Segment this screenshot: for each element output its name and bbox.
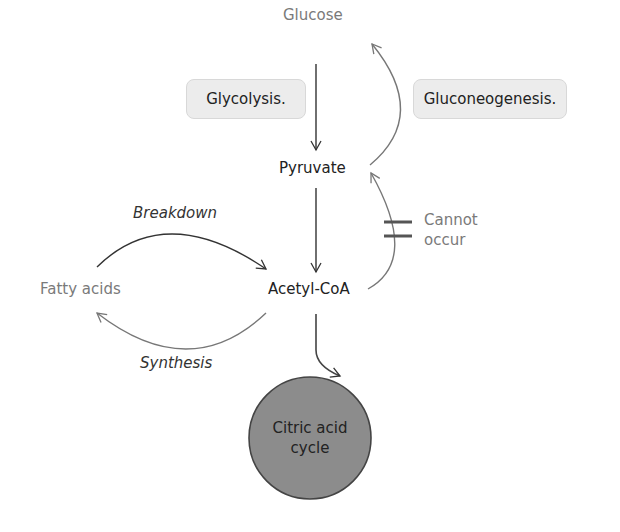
gluconeogenesis-box: Gluconeogenesis. — [413, 79, 567, 119]
glycolysis-box: Glycolysis. — [186, 79, 306, 119]
cannot-occur-line2: occur — [424, 230, 465, 250]
gluconeogenesis-label: Gluconeogenesis. — [424, 90, 557, 108]
glucose-label: Glucose — [283, 6, 343, 24]
glycolysis-label: Glycolysis. — [206, 90, 286, 108]
synthesis-label: Synthesis — [140, 354, 212, 372]
fatty-acids-label: Fatty acids — [40, 280, 121, 298]
synthesis-arrow — [97, 313, 266, 349]
cycle-line2: cycle — [250, 438, 370, 458]
breakdown-label: Breakdown — [133, 204, 217, 222]
citric-acid-cycle-label: Citric acid cycle — [250, 418, 370, 458]
gluconeogenesis-arrow — [370, 44, 401, 165]
acetyl-coa-label: Acetyl-CoA — [268, 280, 350, 298]
breakdown-arrow — [97, 234, 266, 269]
blocked-arrow — [368, 173, 395, 289]
cycle-line1: Citric acid — [250, 418, 370, 438]
cannot-occur-line1: Cannot — [424, 210, 478, 230]
acetylcoa-to-cycle-arrow — [316, 314, 340, 376]
pyruvate-label: Pyruvate — [279, 159, 346, 177]
